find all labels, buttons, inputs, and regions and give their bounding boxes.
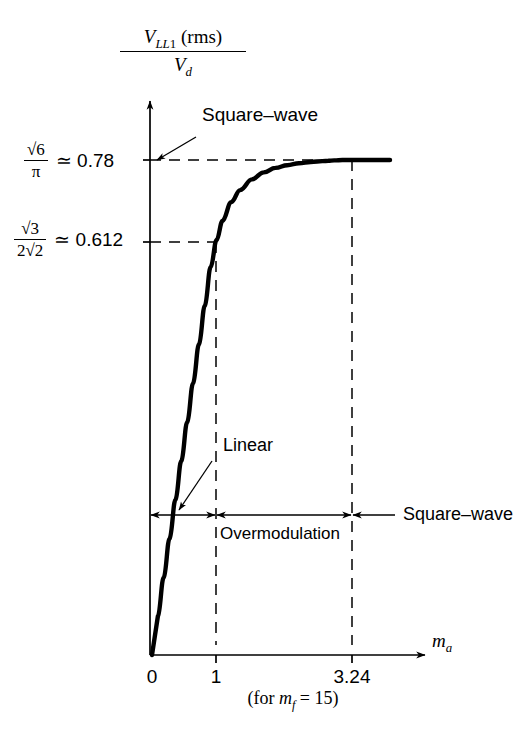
annotation-overmodulation-region: Overmodulation: [220, 524, 340, 544]
x-axis-note-mf: (for mf = 15): [247, 688, 338, 709]
y-tick-denominator: 2√2: [14, 240, 46, 260]
figure-pwm-voltage-vs-modulation-index: VLL1 (rms) Vd: [0, 0, 518, 730]
x-tick-label-1: 1: [211, 666, 222, 688]
x-tick-label-0: 0: [147, 666, 158, 688]
y-tick-numerator: √6: [24, 140, 48, 161]
linear-callout-leader: [179, 461, 212, 510]
data-curve-vll1-vs-ma: [152, 160, 390, 655]
y-tick-fraction-sqrt3-2sqrt2: √3 2√2: [14, 219, 46, 260]
y-tick-value-0-612: ≃ 0.612: [46, 230, 123, 249]
y-tick-value-0-78: ≃ 0.78: [48, 151, 114, 170]
annotation-linear-callout: Linear: [223, 435, 273, 456]
square-wave-callout-leader: [157, 137, 196, 160]
x-axis-label: ma: [432, 630, 452, 652]
y-tick-label-square-wave-limit: √6 π ≃ 0.78: [24, 140, 114, 181]
annotation-square-wave-region: Square–wave: [403, 504, 513, 525]
x-tick-label-3-24: 3.24: [334, 666, 371, 688]
annotation-square-wave-callout: Square–wave: [202, 104, 318, 126]
y-tick-fraction-sqrt6-pi: √6 π: [24, 140, 48, 181]
y-tick-denominator: π: [24, 161, 48, 181]
y-tick-label-linear-limit: √3 2√2 ≃ 0.612: [14, 219, 123, 260]
y-tick-numerator: √3: [14, 219, 46, 240]
